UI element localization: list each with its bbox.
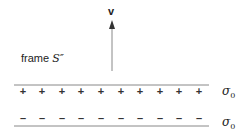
minus-charge: – — [194, 112, 204, 124]
velocity-label: v — [108, 5, 114, 17]
minus-charge: – — [76, 112, 86, 124]
minus-charge: – — [174, 112, 184, 124]
sigma-subscript: 0 — [230, 122, 235, 131]
minus-charge: – — [135, 112, 145, 124]
sigma-symbol: σ — [222, 115, 230, 129]
plus-charge: + — [116, 85, 126, 97]
minus-charge: – — [57, 112, 67, 124]
plus-charge: + — [96, 85, 106, 97]
frame-symbol: S″ — [52, 52, 64, 65]
plus-charge: + — [18, 85, 28, 97]
frame-label-text: frame — [21, 52, 52, 64]
plus-charge: + — [194, 85, 204, 97]
velocity-arrow-head — [109, 20, 115, 29]
minus-charge: – — [116, 112, 126, 124]
plus-charge: + — [135, 85, 145, 97]
top-sigma-label: σ0 — [222, 84, 235, 100]
minus-charge: – — [96, 112, 106, 124]
plus-charge: + — [155, 85, 165, 97]
minus-charge: – — [18, 112, 28, 124]
plus-charge: + — [57, 85, 67, 97]
plus-charge: + — [174, 85, 184, 97]
sigma-symbol: σ — [222, 84, 230, 98]
frame-label: frame S″ — [21, 52, 64, 65]
plus-charge: + — [37, 85, 47, 97]
minus-charge: – — [155, 112, 165, 124]
sigma-subscript: 0 — [230, 91, 235, 100]
bottom-sigma-label: σ0 — [222, 115, 235, 131]
plus-charge: + — [76, 85, 86, 97]
minus-charge: – — [37, 112, 47, 124]
